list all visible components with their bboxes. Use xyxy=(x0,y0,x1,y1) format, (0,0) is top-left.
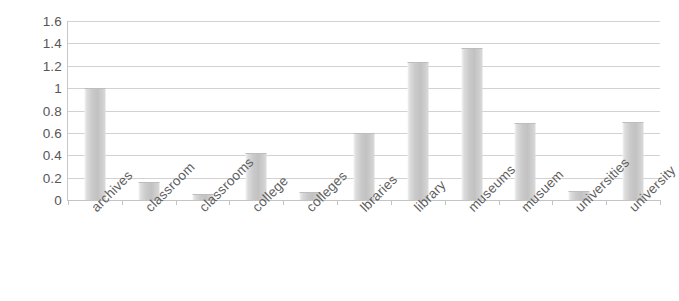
bar[interactable] xyxy=(84,88,105,200)
y-axis-tick-label: 1 xyxy=(0,82,62,96)
y-axis-tick-label: 1.2 xyxy=(0,60,62,74)
y-axis-tick-label: 0.6 xyxy=(0,127,62,141)
bar-slot xyxy=(391,21,445,200)
bar-slot xyxy=(68,21,122,200)
bar[interactable] xyxy=(461,48,482,200)
y-axis-tick-label: 1.6 xyxy=(0,15,62,29)
bars-layer xyxy=(68,21,660,200)
y-axis-tick-label: 1.4 xyxy=(0,37,62,51)
x-axis-category-labels: archivesclassroomclassroomscollegecolleg… xyxy=(0,205,674,301)
y-axis-tick-label: 0.2 xyxy=(0,172,62,186)
bar-slot xyxy=(283,21,337,200)
bar-slot xyxy=(445,21,499,200)
y-axis-tick-label: 0.8 xyxy=(0,105,62,119)
y-axis-tick-label: 0.4 xyxy=(0,149,62,163)
bar[interactable] xyxy=(407,62,428,200)
